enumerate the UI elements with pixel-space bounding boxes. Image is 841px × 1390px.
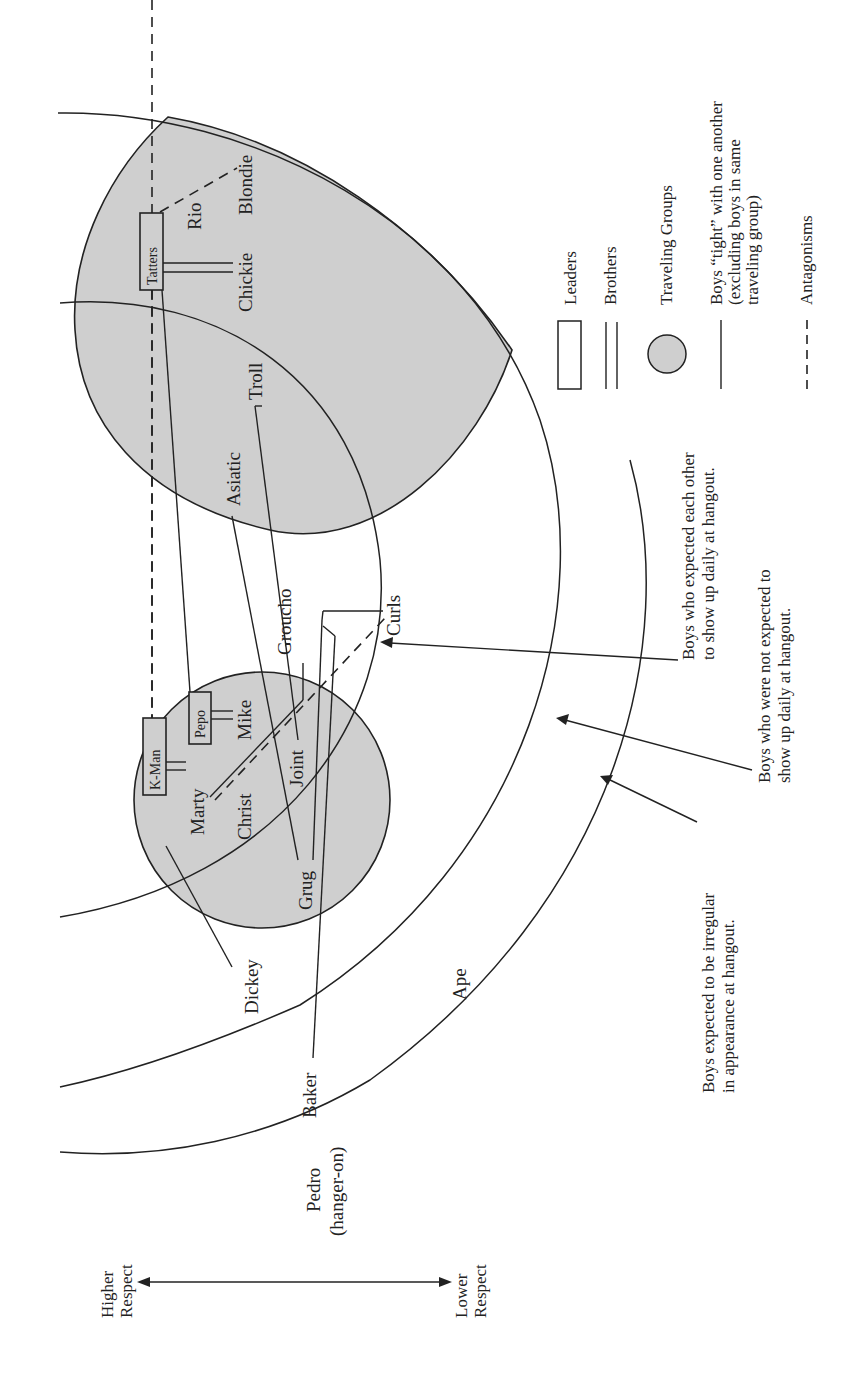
label-groucho: Groucho: [274, 589, 295, 655]
arrow-outer: [608, 779, 697, 822]
label-curls: Curls: [383, 595, 404, 636]
label-asiatic: Asiatic: [223, 452, 244, 506]
traveling-group-small: [134, 672, 390, 928]
label-grug: Grug: [295, 870, 316, 910]
note-outer-line2: in appearance at hangout.: [719, 919, 738, 1093]
label-christ: Christ: [234, 793, 255, 840]
axis-lower-line1: Lower: [452, 1273, 471, 1318]
label-joint: Joint: [286, 749, 307, 787]
label-chickie: Chickie: [235, 253, 256, 312]
label-pepo: Pepo: [193, 710, 208, 738]
arrow-inner: [390, 643, 678, 660]
note-inner-line1: Boys who expected each other: [679, 452, 698, 660]
note-middle-line1: Boys who were not expected to: [755, 569, 774, 783]
legend-tight-line3: traveling group): [743, 195, 762, 305]
legend-antagonisms: Antagonisms: [797, 215, 816, 305]
label-tatters: Tatters: [145, 247, 160, 285]
label-pedro: Pedro: [303, 1168, 324, 1212]
legend: Leaders Brothers Traveling Groups Boys “…: [558, 101, 816, 389]
label-mike: Mike: [234, 700, 255, 740]
annotations: Boys who expected each other to show up …: [380, 452, 794, 1093]
note-outer-line1: Boys expected to be irregular: [699, 893, 718, 1093]
legend-leader-icon: [558, 321, 581, 389]
traveling-group-large: [75, 117, 512, 534]
note-inner-line2: to show up daily at hangout.: [699, 467, 718, 660]
arrow-middle: [565, 720, 752, 770]
note-middle-line2: show up daily at hangout.: [775, 608, 794, 783]
label-ape: Ape: [449, 968, 470, 1000]
legend-tight-line2: (excluding boys in same: [725, 139, 744, 305]
label-troll: Troll: [245, 363, 266, 400]
arrow-left-icon: [137, 1277, 150, 1287]
label-dickey: Dickey: [241, 959, 262, 1014]
legend-brothers: Brothers: [601, 246, 620, 305]
axis-higher-line1: Higher: [98, 1270, 117, 1318]
sociogram-diagram: Tatters Rio Blondie Chickie Troll Asiati…: [0, 0, 841, 1390]
label-pedro-note: (hanger-on): [326, 1147, 348, 1236]
label-rio: Rio: [184, 203, 205, 230]
axis-lower-line2: Respect: [471, 1264, 490, 1318]
legend-leaders: Leaders: [561, 251, 580, 305]
label-baker: Baker: [299, 1072, 320, 1118]
arrow-right-icon: [439, 1277, 452, 1287]
legend-group-icon: [648, 335, 686, 373]
legend-tight-line1: Boys “tight” with one another: [707, 101, 726, 305]
legend-traveling-groups: Traveling Groups: [657, 185, 676, 305]
label-marty: Marty: [187, 788, 208, 835]
label-blondie: Blondie: [235, 155, 256, 215]
respect-axis: Higher Respect Lower Respect: [98, 1264, 490, 1318]
axis-higher-line2: Respect: [117, 1264, 136, 1318]
label-kman: K-Man: [148, 750, 163, 790]
